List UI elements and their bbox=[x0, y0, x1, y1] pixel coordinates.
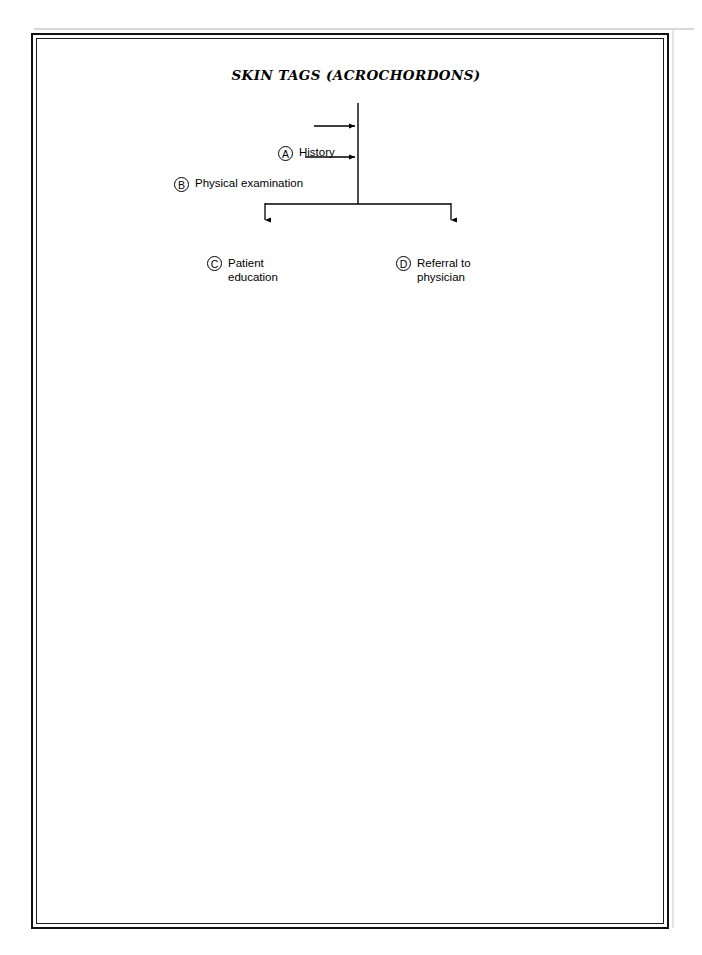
node-marker-d: D bbox=[396, 256, 411, 271]
flowchart-connectors bbox=[37, 39, 675, 299]
page-content: SKIN TAGS (ACROCHORDONS) bbox=[37, 39, 675, 935]
node-marker-c: C bbox=[207, 256, 222, 271]
page-border-inner: SKIN TAGS (ACROCHORDONS) bbox=[36, 38, 664, 924]
node-label-physical-examination: Physical examination bbox=[195, 177, 303, 191]
node-label-patient-education-line2: education bbox=[228, 270, 278, 284]
node-label-referral-line1: Referral to bbox=[417, 257, 471, 269]
flow-node-history: A History bbox=[278, 146, 335, 161]
node-marker-b: B bbox=[174, 177, 189, 192]
flow-node-referral-to-physician: D Referral to physician bbox=[396, 256, 471, 284]
node-marker-a: A bbox=[278, 146, 293, 161]
flow-node-patient-education: C Patient education bbox=[207, 256, 278, 284]
node-label-referral-line2: physician bbox=[417, 270, 471, 284]
node-label-patient-education-line1: Patient bbox=[228, 257, 264, 269]
node-label-patient-education: Patient education bbox=[228, 256, 278, 284]
scan-artifact-top-line bbox=[34, 28, 694, 30]
node-label-referral-to-physician: Referral to physician bbox=[417, 256, 471, 284]
node-label-history: History bbox=[299, 146, 335, 160]
page-border-outer: SKIN TAGS (ACROCHORDONS) bbox=[31, 33, 669, 929]
flow-node-physical-examination: B Physical examination bbox=[174, 177, 303, 192]
